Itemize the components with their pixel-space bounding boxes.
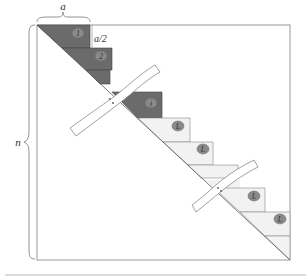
badge-1: 1 bbox=[72, 28, 84, 38]
half-height-label: a/2 bbox=[94, 33, 107, 44]
count-brace bbox=[24, 25, 35, 259]
svg-text:i: i bbox=[150, 99, 152, 108]
svg-text:L: L bbox=[200, 145, 206, 154]
badge-l1: L bbox=[172, 121, 184, 131]
badge-l2: L bbox=[197, 144, 209, 154]
svg-text:L: L bbox=[277, 215, 283, 224]
badge-l3: L bbox=[248, 191, 260, 201]
svg-text:1: 1 bbox=[76, 29, 80, 38]
width-label: a bbox=[60, 0, 66, 12]
width-brace bbox=[37, 12, 90, 22]
svg-text:L: L bbox=[175, 122, 181, 131]
svg-text:L: L bbox=[251, 192, 257, 201]
badge-2: 2 bbox=[95, 51, 107, 61]
staircase-diagram: 1 2 i L L L L a a/2 n bbox=[0, 0, 306, 276]
badge-i: i bbox=[145, 98, 157, 108]
badge-l4: L bbox=[274, 214, 286, 224]
count-label: n bbox=[15, 136, 21, 148]
svg-text:2: 2 bbox=[99, 52, 103, 61]
